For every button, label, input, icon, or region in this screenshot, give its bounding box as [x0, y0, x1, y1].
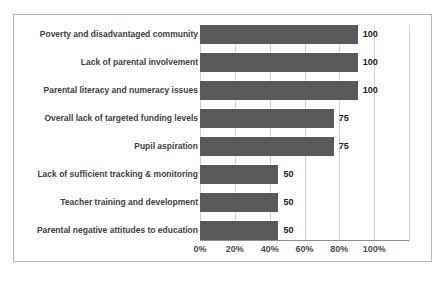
x-axis-tick-label: 60%	[295, 245, 313, 254]
category-label: Overall lack of targeted funding levels	[22, 109, 198, 128]
x-axis-tick-label: 0%	[193, 245, 206, 254]
bar-value-label: 50	[283, 170, 293, 179]
bar	[200, 221, 278, 240]
x-axis-tick-label: 80%	[330, 245, 348, 254]
x-axis-tick-label: 100%	[363, 245, 386, 254]
bar	[200, 25, 358, 44]
category-axis-labels: Poverty and disadvantaged community Lack…	[22, 25, 198, 240]
bar	[200, 137, 334, 156]
x-axis-tick-label: 40%	[261, 245, 279, 254]
bar-value-label: 100	[363, 58, 378, 67]
table-row: 50	[200, 165, 409, 184]
category-label: Parental literacy and numeracy issues	[22, 81, 198, 100]
bar	[200, 53, 358, 72]
table-row: 50	[200, 193, 409, 212]
bar-value-label: 75	[339, 142, 349, 151]
table-row: 100	[200, 25, 409, 44]
bar-series: 100 100 100 75 75 50	[200, 25, 409, 240]
x-axis-line	[200, 240, 409, 241]
table-row: 75	[200, 137, 409, 156]
category-label: Pupil aspiration	[22, 137, 198, 156]
bar	[200, 165, 278, 184]
bar	[200, 109, 334, 128]
table-row: 100	[200, 53, 409, 72]
bar	[200, 193, 278, 212]
bar-value-label: 100	[363, 30, 378, 39]
bar-value-label: 75	[339, 114, 349, 123]
table-row: 75	[200, 109, 409, 128]
table-row: 100	[200, 81, 409, 100]
bar-value-label: 50	[283, 198, 293, 207]
chart-figure: Poverty and disadvantaged community Lack…	[13, 14, 432, 262]
x-axis-tick-label: 20%	[226, 245, 244, 254]
category-label: Lack of sufficient tracking & monitoring	[22, 165, 198, 184]
category-label: Parental negative attitudes to education	[22, 221, 198, 240]
table-row: 50	[200, 221, 409, 240]
gridline	[409, 25, 410, 241]
bar-value-label: 100	[363, 86, 378, 95]
x-axis-tick-labels: 0%20%40%60%80%100%	[200, 245, 409, 259]
category-label: Lack of parental involvement	[22, 53, 198, 72]
category-label: Poverty and disadvantaged community	[22, 25, 198, 44]
category-label: Teacher training and development	[22, 193, 198, 212]
plot-area: 100 100 100 75 75 50	[200, 25, 409, 241]
bar	[200, 81, 358, 100]
bar-value-label: 50	[283, 226, 293, 235]
